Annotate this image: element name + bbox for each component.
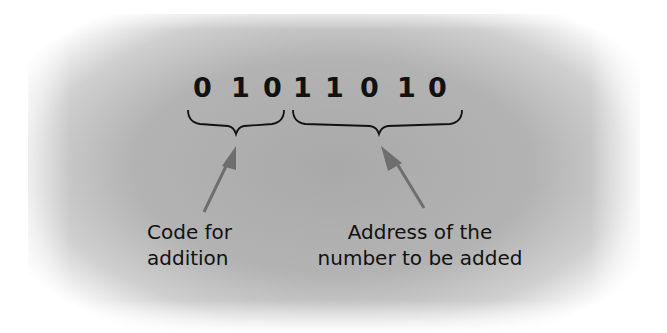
opcode-label-line-2: addition [147,245,232,271]
opcode-label-line-1: Code for [147,219,232,245]
braces-and-arrows [0,0,667,333]
address-brace [293,110,462,134]
opcode-label: Code for addition [147,219,232,271]
opcode-arrow [204,162,228,212]
address-label: Address of the number to be added [305,219,535,271]
opcode-brace [188,110,284,134]
opcode-arrowhead [222,146,236,170]
address-label-line-1: Address of the [305,219,535,245]
address-arrow [396,162,424,208]
address-label-line-2: number to be added [305,245,535,271]
